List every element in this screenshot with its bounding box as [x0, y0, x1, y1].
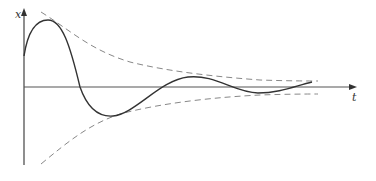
lower-envelope: [41, 94, 318, 164]
damped-oscillation-plot: [0, 0, 376, 181]
y-axis-arrow: [21, 8, 27, 16]
x-axis-arrow: [349, 84, 357, 90]
x-axis-label: t: [352, 91, 356, 104]
y-axis-label: x: [15, 8, 21, 21]
upper-envelope: [41, 12, 318, 81]
damped-oscillation-curve: [24, 20, 312, 116]
